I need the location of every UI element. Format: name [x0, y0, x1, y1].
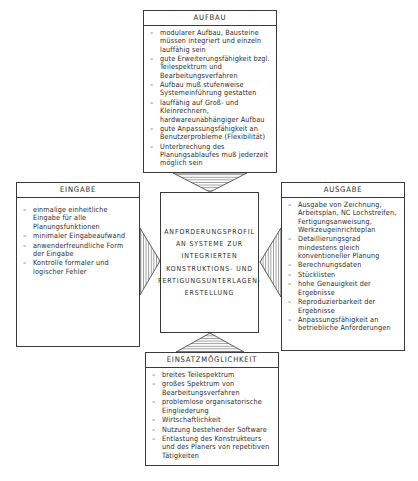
arrow-einsatz-to-center — [176, 333, 244, 352]
center-line: AN SYSTEME ZUR — [158, 238, 261, 250]
center-line: INTEGRIERTEN — [158, 250, 261, 262]
list-item: Anpassungsfähigkeit an betriebliche Anfo… — [288, 316, 400, 333]
eingabe-list: einmalige einheitliche Eingabe für alle … — [17, 198, 139, 276]
list-item: Unterbrechung des Planungsablaufes muß j… — [150, 143, 272, 168]
center-line: ANFORDERUNGSPROFIL — [158, 226, 261, 238]
list-item: Reproduzierbarkeit der Ergebnisse — [288, 298, 400, 315]
list-item: modularer Aufbau, Bausteine müssen integ… — [150, 29, 272, 54]
ausgabe-list: Ausgabe von Zeichnung, Arbeitsplan, NC L… — [282, 198, 404, 333]
list-item: Wirtschaftlichkeit — [152, 416, 274, 424]
aufbau-list: modularer Aufbau, Bausteine müssen integ… — [144, 26, 276, 168]
aufbau-box: AUFBAU modularer Aufbau, Bausteine müsse… — [143, 10, 277, 173]
list-item: Stücklisten — [288, 271, 400, 279]
list-item: minimaler Eingabeaufwand — [23, 232, 135, 240]
ausgabe-title: AUSGABE — [282, 183, 404, 198]
list-item: breites Teilespektrum — [152, 371, 274, 379]
list-item: lauffähig auf Groß- und Kleinrechnern, h… — [150, 99, 272, 124]
center-line: ERSTELLUNG — [158, 287, 261, 299]
list-item: anwenderfreundliche Form der Eingabe — [23, 242, 135, 259]
list-item: Aufbau muß stufenweise Systemeinführung … — [150, 81, 272, 98]
list-item: einmalige einheitliche Eingabe für alle … — [23, 206, 135, 231]
arrow-aufbau-to-center — [173, 173, 247, 192]
list-item: großes Spektrum von Bearbeitungsverfahre… — [152, 380, 274, 397]
einsatz-title: EINSATZMÖGLICHKEIT — [146, 353, 278, 368]
center-title: ANFORDERUNGSPROFIL AN SYSTEME ZUR INTEGR… — [158, 226, 261, 299]
list-item: Entlastung des Konstrukteurs und des Pla… — [152, 435, 274, 460]
center-line: FERTIGUNGSUNTERLAGEN- — [158, 275, 261, 287]
list-item: gute Anpassungsfähigkeit an Benutzerprob… — [150, 125, 272, 142]
center-line: KONSTRUKTIONS- UND — [158, 263, 261, 275]
center-box: ANFORDERUNGSPROFIL AN SYSTEME ZUR INTEGR… — [160, 192, 259, 333]
einsatz-list: breites Teilespektrum großes Spektrum vo… — [146, 368, 278, 460]
list-item: Ausgabe von Zeichnung, Arbeitsplan, NC L… — [288, 201, 400, 234]
list-item: problemlose organisatorische Eingliederu… — [152, 398, 274, 415]
eingabe-box: EINGABE einmalige einheitliche Eingabe f… — [16, 182, 140, 347]
ausgabe-box: AUSGABE Ausgabe von Zeichnung, Arbeitspl… — [281, 182, 405, 351]
list-item: hohe Genauigkeit der Ergebnisse — [288, 280, 400, 297]
aufbau-title: AUFBAU — [144, 11, 276, 26]
list-item: gute Erweiterungsfähigkeit bzgl. Teilesp… — [150, 55, 272, 80]
eingabe-title: EINGABE — [17, 183, 139, 198]
list-item: Nutzung bestehender Software — [152, 426, 274, 434]
list-item: Berechnungsdaten — [288, 261, 400, 269]
einsatzmoeglichkeit-box: EINSATZMÖGLICHKEIT breites Teilespektrum… — [145, 352, 279, 466]
arrow-center-to-ausgabe — [260, 228, 281, 297]
list-item: Detaillierungsgrad mindestens gleich kon… — [288, 235, 400, 260]
list-item: Kontrolle formaler und logischer Fehler — [23, 259, 135, 276]
